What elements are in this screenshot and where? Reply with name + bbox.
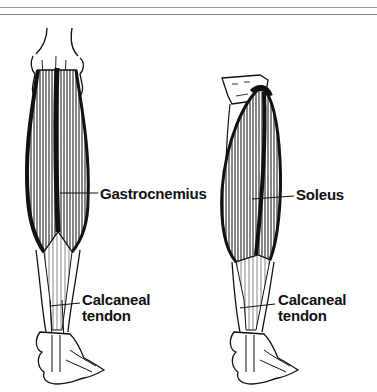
label-soleus: Soleus <box>296 187 344 203</box>
label-right-tendon-line2: tendon <box>278 308 327 324</box>
label-left-tendon-line1: Calcaneal <box>82 292 150 308</box>
left-leg-gastrocnemius <box>27 28 104 384</box>
label-gastrocnemius: Gastrocnemius <box>100 186 207 202</box>
label-left-tendon-line2: tendon <box>82 308 131 324</box>
right-leg-soleus <box>222 75 298 384</box>
label-right-tendon-line1: Calcaneal <box>278 292 346 308</box>
